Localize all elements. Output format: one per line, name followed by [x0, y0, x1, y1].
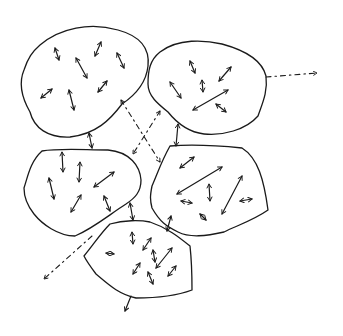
diagram-canvas — [0, 0, 343, 336]
region-middle-right — [151, 145, 269, 236]
connection-middle-left-bottom-center — [130, 203, 133, 220]
region-bottom-center — [84, 221, 192, 298]
connections — [89, 124, 178, 231]
region-middle-left — [24, 149, 141, 236]
region-top-right-arrows — [170, 61, 231, 112]
dashed-top-right-to-middle-left — [133, 111, 160, 154]
region-bottom-center-arrows — [106, 232, 176, 284]
connection-middle-right-bottom-center — [167, 216, 171, 231]
dashed-top-right-exit — [266, 73, 317, 77]
region-top-left — [21, 26, 148, 137]
region-top-left-arrows — [41, 42, 124, 110]
dashed-flows — [44, 73, 317, 279]
connection-top-right-middle-right — [176, 124, 178, 146]
connection-top-left-middle-left — [89, 133, 92, 148]
region-top-right — [148, 41, 266, 134]
region-middle-left-arrows — [49, 152, 114, 212]
dashed-top-left-to-middle-right — [121, 100, 160, 162]
region-middle-right-arrows — [177, 157, 252, 220]
solid-bottom-exit — [125, 296, 131, 311]
